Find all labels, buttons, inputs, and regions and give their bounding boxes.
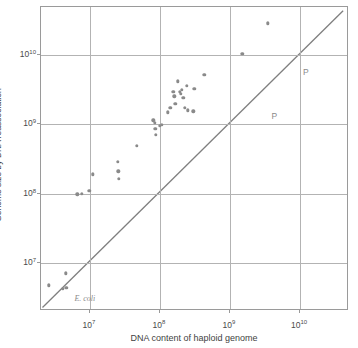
y-tick-label: 108 <box>23 187 36 198</box>
y-tick-mark <box>37 54 40 55</box>
gridline-horizontal <box>41 194 347 195</box>
y-tick-mark <box>37 262 40 263</box>
x-tick-mark <box>89 310 90 313</box>
y-tick-label: 1010 <box>20 49 36 60</box>
gridline-vertical <box>90 7 91 309</box>
p-label-upper: P <box>303 67 309 77</box>
gridline-vertical <box>160 7 161 309</box>
x-tick-mark <box>159 310 160 313</box>
e-coli-label: E. coli <box>74 294 95 303</box>
x-axis-label: DNA content of haploid genome <box>130 333 257 343</box>
gridline-vertical <box>300 7 301 309</box>
scatter-plot-figure: Genome size by DNA reassociation DNA con… <box>0 0 358 348</box>
x-tick-label: 107 <box>83 319 96 330</box>
x-tick-label: 1010 <box>291 319 307 330</box>
y-tick-label: 109 <box>23 118 36 129</box>
gridline-horizontal <box>41 55 347 56</box>
y-tick-label: 107 <box>23 256 36 267</box>
y-tick-mark <box>37 123 40 124</box>
one-to-one-reference-line <box>41 7 347 309</box>
x-tick-label: 109 <box>223 319 236 330</box>
x-tick-mark <box>299 310 300 313</box>
gridline-horizontal <box>41 263 347 264</box>
y-axis-label: Genome size by DNA reassociation <box>0 88 3 222</box>
x-tick-mark <box>229 310 230 313</box>
y-tick-mark <box>37 193 40 194</box>
p-label-lower: P <box>271 111 277 121</box>
plot-area: E. coliPP <box>40 6 348 310</box>
gridline-horizontal <box>41 124 347 125</box>
x-tick-label: 108 <box>153 319 166 330</box>
gridline-vertical <box>230 7 231 309</box>
